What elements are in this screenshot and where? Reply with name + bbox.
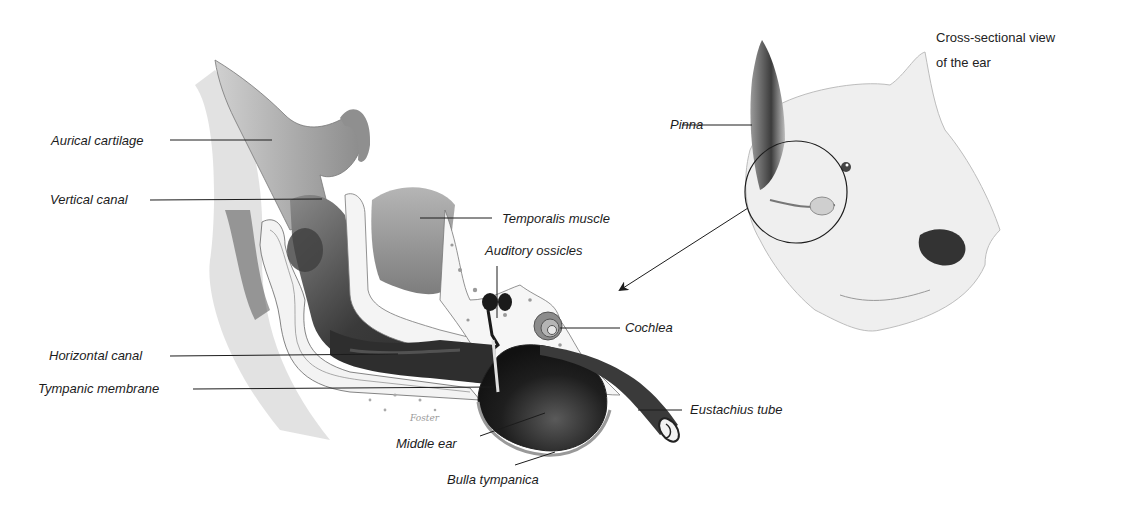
label-vertical-canal: Vertical canal [50, 192, 128, 208]
label-middle-ear: Middle ear [396, 436, 457, 452]
label-aurical-cartilage: Aurical cartilage [51, 133, 144, 149]
label-horizontal-canal: Horizontal canal [49, 348, 142, 364]
label-cochlea: Cochlea [625, 320, 673, 336]
label-temporalis-muscle: Temporalis muscle [502, 211, 610, 227]
ear-anatomy-diagram: Foster [0, 0, 1125, 507]
zoom-arrow [620, 208, 748, 290]
label-auditory-ossicles: Auditory ossicles [485, 243, 583, 259]
cochlea-shape [534, 312, 562, 340]
label-pinna: Pinna [670, 117, 703, 133]
caption-line-1: Cross-sectional view [936, 30, 1055, 46]
caption-line-2: of the ear [936, 55, 991, 71]
label-bulla-tympanica: Bulla tympanica [447, 472, 539, 488]
dog-head-illustration [745, 40, 1000, 331]
label-eustachius-tube: Eustachius tube [690, 402, 783, 418]
label-tympanic-membrane: Tympanic membrane [38, 381, 159, 397]
artist-signature: Foster [409, 413, 440, 423]
ear-cross-section: Foster [195, 60, 683, 455]
dog-head-outline [746, 52, 1000, 331]
